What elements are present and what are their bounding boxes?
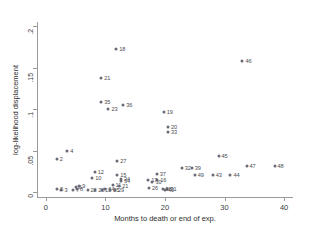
y-tick-label-wrap: .05 [30, 151, 31, 152]
y-axis-line [37, 22, 38, 197]
data-point [100, 188, 103, 191]
data-point [100, 76, 103, 79]
data-point-label: 26 [152, 185, 158, 191]
y-tick-label-wrap: .2 [30, 26, 31, 27]
data-point [241, 59, 244, 62]
data-point-label: 45 [222, 153, 228, 159]
data-point [100, 101, 103, 104]
data-point [107, 108, 110, 111]
data-point-label: 18 [119, 46, 125, 52]
data-point [72, 189, 75, 192]
plot-area: 0.05.1.15.2 010203040 184621353623192033… [37, 22, 293, 197]
data-point [147, 186, 150, 189]
data-point-label: 23 [111, 106, 117, 112]
data-point [180, 166, 183, 169]
x-tick-mark [225, 197, 226, 201]
data-point [217, 155, 220, 158]
data-point-label: 27 [120, 158, 126, 164]
data-point [116, 174, 119, 177]
data-point [66, 150, 69, 153]
data-point [245, 165, 248, 168]
y-tick-label: .2 [28, 29, 35, 35]
data-point [78, 185, 81, 188]
data-point [229, 173, 232, 176]
x-tick-mark [105, 197, 106, 201]
data-point-label: 3 [64, 187, 67, 193]
data-point [115, 47, 118, 50]
data-point [93, 171, 96, 174]
data-point [190, 166, 193, 169]
data-point-label: 29 [118, 187, 124, 193]
data-point [166, 131, 169, 134]
y-tick-label-wrap: .1 [30, 109, 31, 110]
y-tick-mark [33, 109, 37, 110]
data-point [273, 165, 276, 168]
data-point [55, 157, 58, 160]
data-point [193, 174, 196, 177]
y-tick-label-wrap: .15 [30, 68, 31, 69]
y-tick-mark [33, 68, 37, 69]
x-axis-label: Months to death or end of exp. [37, 214, 293, 223]
x-tick-label: 20 [161, 203, 169, 212]
x-tick-label: 30 [220, 203, 228, 212]
y-tick-mark [33, 192, 37, 193]
data-point-label: 39 [195, 165, 201, 171]
data-point [56, 187, 59, 190]
y-axis-label: log-likelihood displacement [10, 22, 20, 197]
data-point [155, 172, 158, 175]
data-point [104, 187, 107, 190]
x-tick-label: 0 [44, 203, 48, 212]
y-tick-mark [33, 26, 37, 27]
data-point [166, 126, 169, 129]
data-point [113, 189, 116, 192]
data-point-label: 37 [160, 171, 166, 177]
data-point-label: 40 [168, 187, 174, 193]
data-point [162, 111, 165, 114]
data-point-label: 33 [171, 129, 177, 135]
data-point [116, 159, 119, 162]
data-point-label: 9 [82, 183, 85, 189]
data-point [94, 188, 97, 191]
data-point [211, 173, 214, 176]
data-point-label: 21 [104, 75, 110, 81]
data-point [151, 181, 154, 184]
x-tick-mark [165, 197, 166, 201]
data-point-label: 4 [70, 148, 73, 154]
y-tick-label-wrap: 0 [30, 192, 31, 193]
data-point-label: 5 [60, 186, 63, 192]
data-point-label: 48 [278, 163, 284, 169]
data-point [164, 189, 167, 192]
data-point [109, 188, 112, 191]
y-axis-label-text: log-likelihood displacement [11, 64, 20, 154]
x-tick-mark [284, 197, 285, 201]
y-tick-label: 0 [28, 194, 35, 198]
y-tick-label: .1 [28, 112, 35, 118]
data-point-label: 43 [216, 172, 222, 178]
data-point [91, 176, 94, 179]
data-point-label: 19 [167, 109, 173, 115]
data-point-label: 35 [104, 99, 110, 105]
data-point [86, 188, 89, 191]
data-point [147, 179, 150, 182]
data-point-label: 44 [233, 172, 239, 178]
data-point-label: 49 [198, 172, 204, 178]
y-tick-label: .15 [28, 72, 35, 82]
data-point-label: 2 [60, 156, 63, 162]
data-point-label: 36 [126, 102, 132, 108]
y-tick-mark [33, 151, 37, 152]
data-point-label: 46 [245, 58, 251, 64]
x-tick-label: 10 [101, 203, 109, 212]
scatter-chart-figure: log-likelihood displacement 0.05.1.15.2 … [0, 0, 310, 242]
x-tick-label: 40 [280, 203, 288, 212]
x-tick-mark [46, 197, 47, 201]
data-point [122, 103, 125, 106]
y-tick-label: .05 [28, 155, 35, 165]
data-point-label: 10 [95, 175, 101, 181]
data-point-label: 47 [250, 163, 256, 169]
